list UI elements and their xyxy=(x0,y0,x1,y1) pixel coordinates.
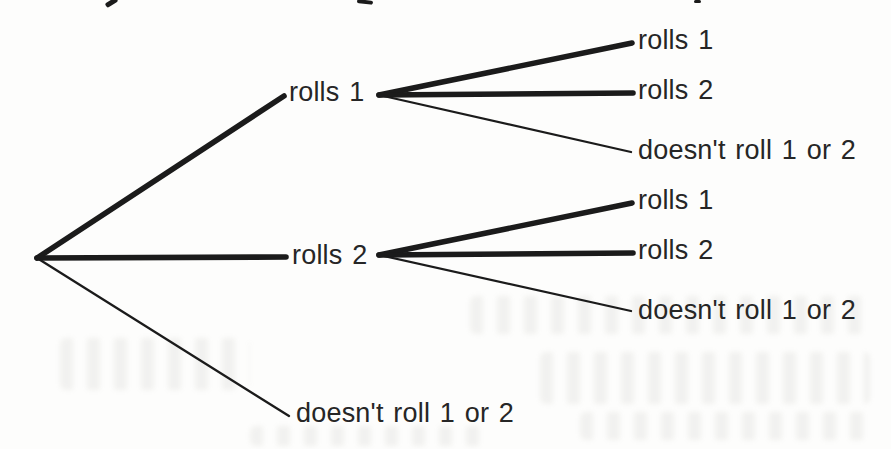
scanned-page: rolls 1rolls 2doesn't roll 1 or 2rolls 1… xyxy=(0,0,891,449)
page-crop-text-artifact xyxy=(694,0,701,3)
page-crop-text-artifact xyxy=(357,0,373,5)
crop-artifact-layer xyxy=(0,0,891,449)
page-crop-text-artifact xyxy=(105,0,119,8)
